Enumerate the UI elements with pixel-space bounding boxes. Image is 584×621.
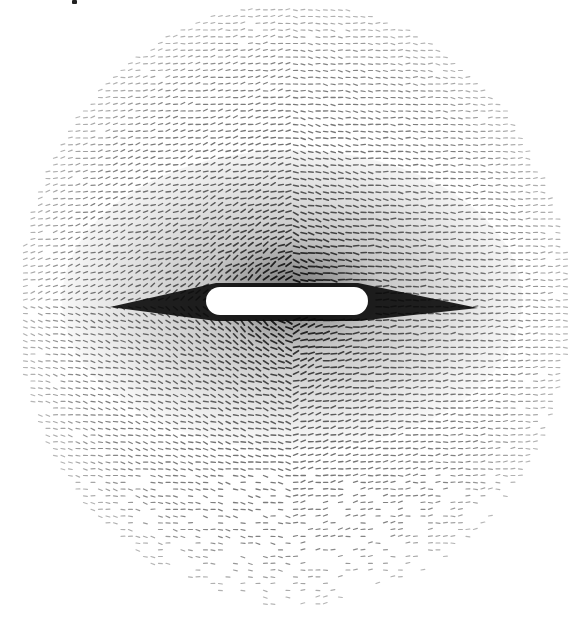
vector-field-plot <box>0 0 584 621</box>
stray-ink-mark <box>72 0 77 4</box>
elongated-body <box>206 287 368 315</box>
